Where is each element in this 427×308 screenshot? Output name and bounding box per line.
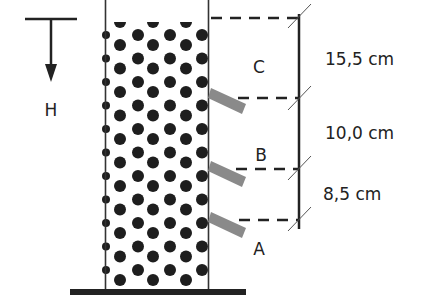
- segment-label-b: 10,0 cm: [325, 123, 394, 143]
- segment-label-c: 15,5 cm: [325, 49, 394, 69]
- point-label-a: A: [253, 239, 265, 259]
- segment-label-a: 8,5 cm: [323, 184, 381, 204]
- tube-b: [208, 161, 246, 187]
- point-label-b: B: [255, 145, 267, 165]
- column-base: [70, 289, 246, 295]
- soil-column-diagram: H C B A 15,5 cm 10,0 cm 8,5 cm: [0, 0, 427, 308]
- level-lines: [211, 18, 299, 220]
- point-label-c: C: [253, 57, 265, 77]
- depth-label: H: [45, 100, 58, 120]
- piezometer-tubes: [208, 88, 246, 238]
- depth-arrow-icon: [25, 19, 77, 82]
- tube-c: [208, 88, 246, 114]
- tube-a: [208, 212, 246, 238]
- soil-particles: [102, 22, 208, 286]
